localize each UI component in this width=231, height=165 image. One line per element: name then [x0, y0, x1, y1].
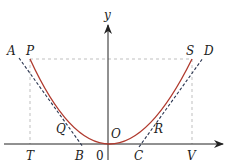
point-label-s: S — [186, 44, 194, 58]
point-label-a: A — [6, 44, 16, 58]
parabola-diagram: y A P S D Q R O T B 0 C V — [0, 0, 231, 165]
y-axis-label: y — [103, 8, 111, 22]
point-label-r: R — [153, 122, 163, 136]
point-label-t: T — [26, 149, 35, 163]
tangent-line-cd — [139, 58, 203, 147]
tangent-line-ab — [19, 58, 83, 147]
point-label-d: D — [203, 44, 214, 58]
point-label-v: V — [187, 149, 197, 163]
point-label-o: O — [111, 127, 121, 141]
point-label-b: B — [74, 149, 84, 163]
point-label-c: C — [134, 149, 143, 163]
point-label-q: Q — [56, 122, 66, 136]
point-label-p: P — [25, 44, 35, 58]
origin-label: 0 — [96, 149, 104, 163]
